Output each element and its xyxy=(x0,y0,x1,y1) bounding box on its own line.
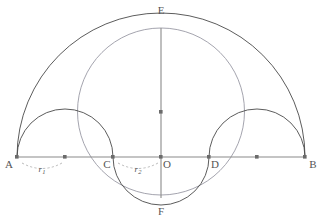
geometry-figure: A C O D B E F r1 r2 xyxy=(0,0,323,221)
semicircle-DB xyxy=(209,109,305,157)
semicircle-AC xyxy=(17,109,113,157)
point-dot-B xyxy=(303,155,307,159)
point-label-E: E xyxy=(158,4,165,16)
point-label-C: C xyxy=(103,158,110,170)
radius-label-r2: r2 xyxy=(135,164,143,175)
geometry-canvas: A C O D B E F r1 r2 xyxy=(0,0,323,221)
point-label-A: A xyxy=(5,158,13,170)
radius-label-r1-subscript: 1 xyxy=(42,168,45,175)
center-dot-vertical-axis xyxy=(159,110,163,114)
center-dot-semicircle-DB xyxy=(255,155,259,159)
point-dot-A xyxy=(15,155,19,159)
point-label-F: F xyxy=(158,205,164,217)
point-label-D: D xyxy=(211,158,219,170)
point-dot-C xyxy=(111,155,115,159)
point-label-B: B xyxy=(309,158,316,170)
radius-label-r2-subscript: 2 xyxy=(138,168,142,175)
center-dot-semicircle-AC xyxy=(63,155,67,159)
point-label-O: O xyxy=(163,158,171,170)
radius-label-r1: r1 xyxy=(39,164,46,175)
